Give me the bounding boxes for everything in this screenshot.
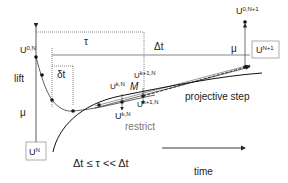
label-ukn-bottom: Uk,N xyxy=(115,111,131,121)
projective-integration-diagram: U0,N τ Δt δt lift μ μ Uk,N Uk+1,N M Uk,N… xyxy=(0,0,288,183)
label-ukn-top: Uk,N xyxy=(110,81,125,91)
label-u0n1: U0,N+1 xyxy=(236,6,259,16)
label-mu-right: μ xyxy=(231,43,237,54)
label-tau: τ xyxy=(84,36,88,47)
point-lift-1 xyxy=(40,73,44,77)
label-time: time xyxy=(194,166,213,177)
label-lift: lift xyxy=(14,73,24,84)
label-small-delta-t: δt xyxy=(57,69,66,80)
label-projective-step: projective step xyxy=(185,91,250,102)
label-M: M xyxy=(130,81,139,92)
label-restrict: restrict xyxy=(125,121,155,132)
point-u0n1 xyxy=(243,20,247,24)
point-lift-3 xyxy=(71,109,75,113)
point-lift-2 xyxy=(50,98,54,102)
label-uk1n-top: Uk+1,N xyxy=(134,70,156,80)
label-inequality: Δt ≤ τ << Δt xyxy=(73,157,129,169)
trajectory-curve xyxy=(53,73,262,152)
label-uk1n-bottom: Uk+1,N xyxy=(137,99,159,109)
label-u0n: U0,N xyxy=(20,45,36,55)
label-mu-left: μ xyxy=(20,107,26,118)
label-delta-t: Δt xyxy=(154,41,164,52)
point-u0n xyxy=(34,55,38,59)
